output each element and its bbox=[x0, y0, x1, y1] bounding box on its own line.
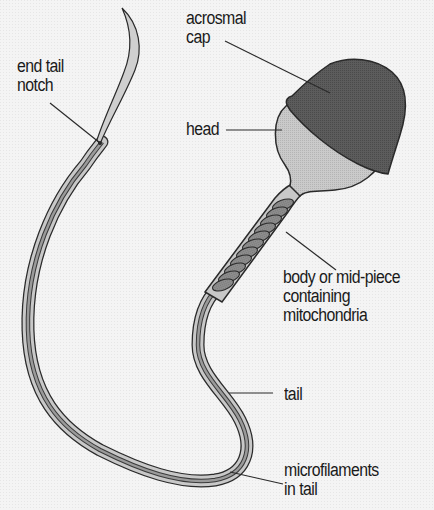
label-midpiece-line2: containing bbox=[283, 287, 400, 306]
sperm-diagram bbox=[0, 0, 434, 510]
label-end-tail-notch-line2: notch bbox=[17, 76, 64, 95]
label-head-text: head bbox=[186, 120, 219, 139]
label-end-tail-notch-line1: end tail bbox=[17, 57, 64, 76]
leader-acrosomal-cap bbox=[225, 41, 330, 93]
label-acrosomal-cap-line1: acrosmal bbox=[186, 9, 246, 28]
label-head: head bbox=[186, 120, 219, 139]
label-microfilaments-line2: in tail bbox=[284, 480, 379, 499]
label-microfilaments: microfilaments in tail bbox=[284, 461, 379, 499]
label-midpiece-line3: mitochondria bbox=[283, 306, 400, 325]
end-tail-piece bbox=[97, 8, 139, 145]
label-end-tail-notch: end tail notch bbox=[17, 57, 64, 95]
tail bbox=[28, 142, 247, 481]
label-tail: tail bbox=[284, 385, 302, 404]
leader-end-tail-notch bbox=[50, 103, 100, 143]
label-tail-text: tail bbox=[284, 385, 302, 404]
label-acrosomal-cap-line2: cap bbox=[186, 28, 246, 47]
label-midpiece: body or mid-piece containing mitochondri… bbox=[283, 268, 400, 325]
leader-midpiece bbox=[286, 232, 336, 270]
label-acrosomal-cap: acrosmal cap bbox=[186, 9, 246, 47]
leader-microfilaments bbox=[230, 472, 283, 484]
label-midpiece-line1: body or mid-piece bbox=[283, 268, 400, 287]
label-microfilaments-line1: microfilaments bbox=[284, 461, 379, 480]
